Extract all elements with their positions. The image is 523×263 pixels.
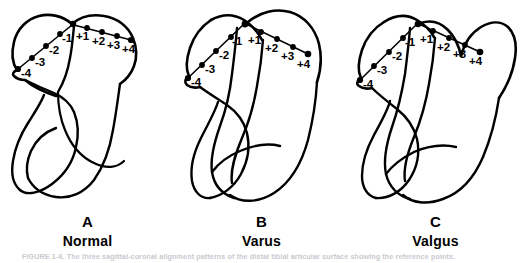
tick-label-neg-2: -2 [392,50,402,62]
panel-b-drawing: -4 -3 -2 -1 +1 +2 +3 +4 [174,0,349,215]
tick-label-pos-2: +2 [92,35,105,47]
body-lower-outline [386,146,456,174]
tick-dot-apex [242,21,249,28]
tick-label-neg-2: -2 [49,44,59,56]
tick-label-neg-1: -1 [62,32,73,44]
panel-c-title: Valgus [348,233,523,249]
tick-label-pos-4: +4 [469,55,483,67]
tick-label-pos-1: +1 [420,33,434,45]
tick-label-neg-3: -3 [35,56,45,68]
tick-label-neg-3: -3 [377,64,387,76]
tick-label-neg-1: -1 [405,36,416,48]
panel-a-drawing: -4 -3 -2 -1 +1 +2 +3 +4 [0,0,175,215]
tick-label-neg-4: -4 [191,76,202,88]
panel-a-normal: -4 -3 -2 -1 +1 +2 +3 +4 [0,0,175,215]
figure-caption: FIGURE 1-6. The three sagittal-coronal a… [22,253,502,261]
panel-c-valgus: -4 -3 -2 -1 +1 +2 +3 +4 [348,0,523,215]
tick-label-pos-2: +2 [265,42,278,54]
tick-label-neg-1: -1 [232,35,243,47]
tick-label-neg-3: -3 [205,63,215,75]
right-shaft-outline [230,82,317,201]
tick-label-pos-4: +4 [122,43,136,55]
panel-c-drawing: -4 -3 -2 -1 +1 +2 +3 +4 [348,0,523,215]
tick-dot-apex [415,21,422,28]
panel-a-letter: A [0,213,175,230]
panel-b-letter: B [174,213,349,230]
panel-b-varus: -4 -3 -2 -1 +1 +2 +3 +4 [174,0,349,215]
tick-dot-apex [70,21,76,27]
tick-label-pos-2: +2 [437,41,450,53]
tick-label-pos-3: +3 [453,48,466,60]
tick-label-pos-3: +3 [107,39,120,51]
tick-label-neg-2: -2 [219,49,229,61]
panel-a-title: Normal [0,233,175,249]
tick-label-neg-4: -4 [21,67,32,79]
body-lower-outline [27,128,56,178]
tick-label-pos-3: +3 [281,50,294,62]
panel-b-title: Varus [174,233,349,249]
tick-label-neg-4: -4 [363,78,374,90]
tick-label-pos-1: +1 [76,30,90,42]
panel-c-letter: C [348,213,523,230]
tick-dot-pos-4 [305,51,312,58]
anatomical-figure: -4 -3 -2 -1 +1 +2 +3 +4 [0,0,523,263]
tick-label-pos-4: +4 [297,58,311,70]
tick-label-pos-1: +1 [248,34,262,46]
right-inner-border [404,38,435,181]
